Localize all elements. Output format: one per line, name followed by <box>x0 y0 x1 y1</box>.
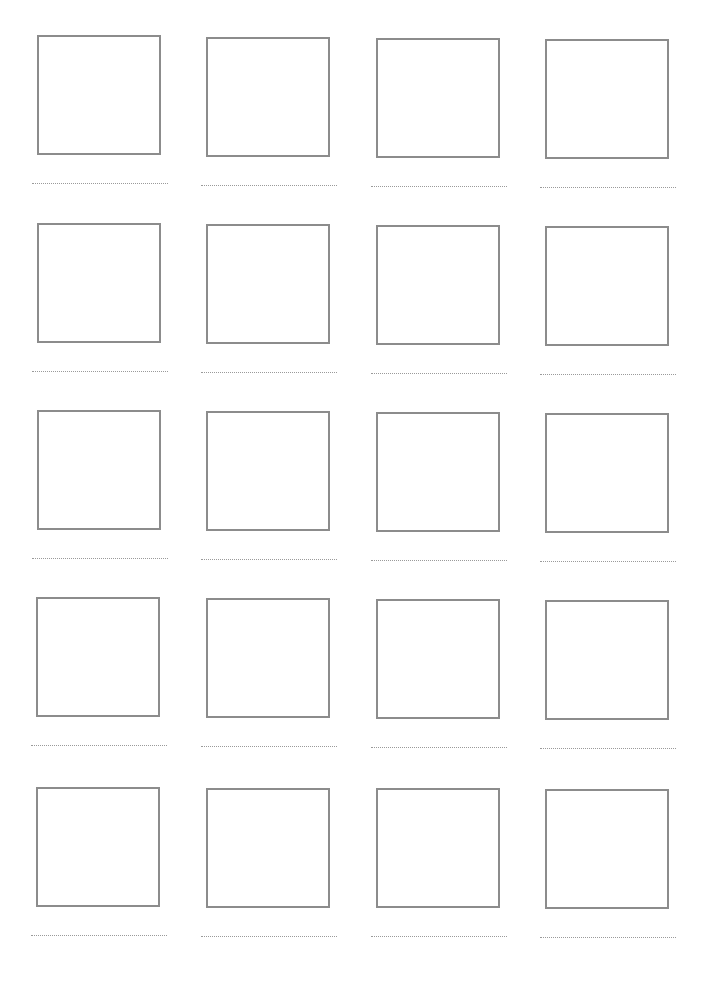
dotted-writing-line <box>32 183 168 184</box>
drawing-box <box>376 599 500 719</box>
grid-cell-r2-c4 <box>540 226 680 386</box>
drawing-box <box>37 35 161 155</box>
dotted-writing-line <box>31 935 167 936</box>
drawing-box <box>545 600 669 720</box>
dotted-writing-line <box>201 185 337 186</box>
drawing-box <box>36 597 160 717</box>
grid-cell-r3-c2 <box>201 411 341 571</box>
grid-cell-r5-c3 <box>371 788 511 948</box>
grid-cell-r4-c3 <box>371 599 511 759</box>
worksheet-page <box>0 0 720 989</box>
drawing-box <box>206 411 330 531</box>
dotted-writing-line <box>540 937 676 938</box>
drawing-box <box>545 413 669 533</box>
grid-cell-r1-c1 <box>32 35 172 195</box>
grid-cell-r5-c2 <box>201 788 341 948</box>
dotted-writing-line <box>371 936 507 937</box>
grid-cell-r3-c1 <box>32 410 172 570</box>
grid-cell-r4-c1 <box>31 597 171 757</box>
grid-cell-r3-c3 <box>371 412 511 572</box>
dotted-writing-line <box>201 559 337 560</box>
grid-cell-r1-c3 <box>371 38 511 198</box>
dotted-writing-line <box>201 372 337 373</box>
dotted-writing-line <box>540 561 676 562</box>
grid-cell-r1-c2 <box>201 37 341 197</box>
grid-cell-r2-c3 <box>371 225 511 385</box>
dotted-writing-line <box>371 186 507 187</box>
grid-cell-r5-c1 <box>31 787 171 947</box>
dotted-writing-line <box>371 747 507 748</box>
grid-cell-r2-c2 <box>201 224 341 384</box>
drawing-box <box>206 224 330 344</box>
grid-cell-r1-c4 <box>540 39 680 199</box>
dotted-writing-line <box>31 745 167 746</box>
drawing-box <box>206 598 330 718</box>
drawing-box <box>36 787 160 907</box>
drawing-box <box>545 789 669 909</box>
drawing-box <box>206 788 330 908</box>
grid-cell-r3-c4 <box>540 413 680 573</box>
dotted-writing-line <box>540 187 676 188</box>
grid-cell-r5-c4 <box>540 789 680 949</box>
dotted-writing-line <box>32 558 168 559</box>
dotted-writing-line <box>371 373 507 374</box>
drawing-box <box>376 412 500 532</box>
grid-cell-r4-c4 <box>540 600 680 760</box>
drawing-box <box>376 225 500 345</box>
drawing-box <box>545 39 669 159</box>
dotted-writing-line <box>540 748 676 749</box>
dotted-writing-line <box>32 371 168 372</box>
dotted-writing-line <box>540 374 676 375</box>
drawing-box <box>376 38 500 158</box>
dotted-writing-line <box>201 746 337 747</box>
dotted-writing-line <box>371 560 507 561</box>
dotted-writing-line <box>201 936 337 937</box>
grid-cell-r4-c2 <box>201 598 341 758</box>
drawing-box <box>206 37 330 157</box>
grid-cell-r2-c1 <box>32 223 172 383</box>
drawing-box <box>376 788 500 908</box>
drawing-box <box>545 226 669 346</box>
drawing-box <box>37 223 161 343</box>
drawing-box <box>37 410 161 530</box>
